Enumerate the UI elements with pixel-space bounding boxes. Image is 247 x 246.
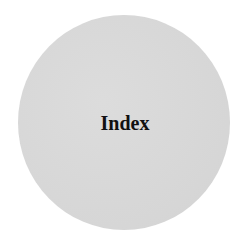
index-disc: Index — [18, 15, 230, 230]
index-label: Index — [101, 112, 150, 135]
